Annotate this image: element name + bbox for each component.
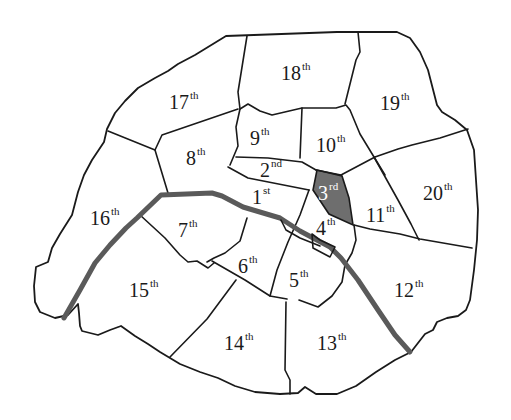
district-number: 5	[289, 269, 299, 291]
district-number: 13	[317, 332, 337, 354]
district-number: 4	[316, 217, 326, 239]
district-number: 2	[260, 159, 270, 181]
label-7th: 7th	[178, 220, 198, 240]
district-number: 3	[318, 182, 328, 204]
district-number: 18	[281, 62, 301, 84]
label-18th: 18th	[281, 63, 311, 83]
district-number: 16	[90, 207, 110, 229]
district-suffix: th	[401, 90, 410, 102]
district-number: 15	[129, 279, 149, 301]
district-suffix: th	[444, 180, 453, 192]
label-20th: 20th	[423, 183, 453, 203]
district-number: 17	[169, 91, 189, 113]
district-boundaries	[108, 32, 472, 394]
district-suffix: rd	[329, 180, 338, 192]
label-3rd: 3rd	[318, 183, 338, 203]
label-15th: 15th	[129, 280, 159, 300]
district-suffix: th	[245, 330, 254, 342]
district-suffix: th	[190, 89, 199, 101]
district-suffix: th	[189, 217, 198, 229]
label-11th: 11th	[366, 205, 395, 225]
paris-map	[0, 0, 511, 420]
label-6th: 6th	[238, 256, 258, 276]
label-16th: 16th	[90, 208, 120, 228]
district-number: 19	[380, 92, 400, 114]
district-suffix: th	[261, 125, 270, 137]
label-8th: 8th	[186, 148, 206, 168]
district-suffix: nd	[271, 157, 282, 169]
district-suffix: th	[302, 60, 311, 72]
district-number: 10	[316, 134, 336, 156]
label-14th: 14th	[224, 333, 254, 353]
district-number: 8	[186, 147, 196, 169]
district-number: 14	[224, 332, 244, 354]
district-number: 11	[366, 204, 385, 226]
district-suffix: th	[337, 132, 346, 144]
label-9th: 9th	[250, 128, 270, 148]
label-2nd: 2nd	[260, 160, 282, 180]
district-suffix: th	[249, 253, 258, 265]
district-suffix: th	[300, 267, 309, 279]
label-17th: 17th	[169, 92, 199, 112]
label-10th: 10th	[316, 135, 346, 155]
district-suffix: th	[338, 330, 347, 342]
label-1st: 1st	[252, 187, 270, 207]
district-number: 20	[423, 182, 443, 204]
district-number: 6	[238, 255, 248, 277]
label-19th: 19th	[380, 93, 410, 113]
district-suffix: th	[415, 277, 424, 289]
district-number: 12	[394, 279, 414, 301]
district-number: 9	[250, 127, 260, 149]
district-number: 1	[252, 186, 262, 208]
label-13th: 13th	[317, 333, 347, 353]
district-suffix: th	[327, 215, 336, 227]
label-5th: 5th	[289, 270, 309, 290]
district-suffix: th	[150, 277, 159, 289]
district-suffix: th	[197, 145, 206, 157]
label-12th: 12th	[394, 280, 424, 300]
district-number: 7	[178, 219, 188, 241]
district-suffix: th	[111, 205, 120, 217]
district-suffix: th	[386, 202, 395, 214]
label-4th: 4th	[316, 218, 336, 238]
district-suffix: st	[263, 184, 270, 196]
